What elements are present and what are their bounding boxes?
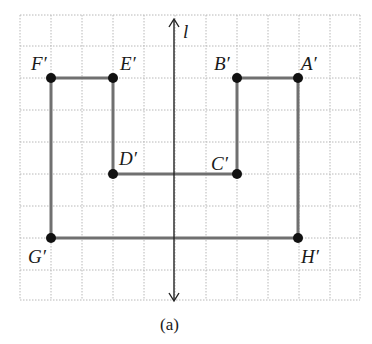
point-H bbox=[293, 233, 303, 243]
label-A: A′ bbox=[299, 53, 318, 74]
point-F bbox=[46, 73, 56, 83]
label-G: G′ bbox=[28, 246, 47, 267]
label-F: F′ bbox=[30, 53, 48, 74]
line-of-reflection bbox=[169, 19, 179, 301]
figure-caption: (a) bbox=[160, 315, 179, 334]
point-G bbox=[46, 233, 56, 243]
label-D: D′ bbox=[118, 148, 138, 169]
point-A bbox=[293, 73, 303, 83]
label-C: C′ bbox=[211, 153, 229, 174]
axis-label: l bbox=[183, 21, 188, 42]
label-E: E′ bbox=[119, 53, 137, 74]
point-B bbox=[232, 73, 242, 83]
point-D bbox=[108, 169, 118, 179]
reflection-diagram: l A′ B′ C′ D′ E′ F′ G′ H′ (a) bbox=[0, 0, 372, 344]
label-B: B′ bbox=[214, 53, 231, 74]
point-E bbox=[108, 73, 118, 83]
point-C bbox=[232, 169, 242, 179]
label-H: H′ bbox=[300, 246, 320, 267]
